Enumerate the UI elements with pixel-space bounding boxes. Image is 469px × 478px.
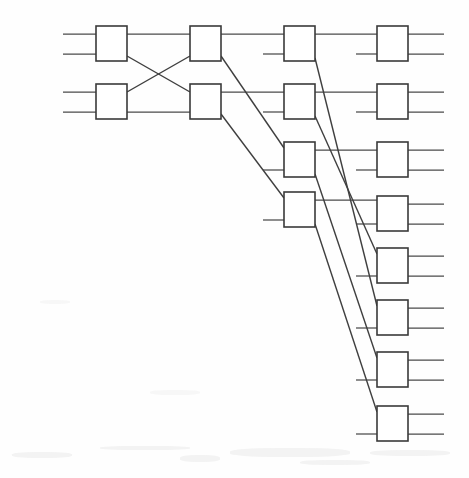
switch-node-s2n1[interactable]: [190, 26, 221, 61]
switch-node-s1n1[interactable]: [96, 26, 127, 61]
switch-node-s3n2[interactable]: [284, 84, 315, 119]
switch-node-s4n5[interactable]: [377, 248, 408, 283]
switch-node-s3n3[interactable]: [284, 142, 315, 177]
switch-node-s4n6[interactable]: [377, 300, 408, 335]
input-stub-group: [63, 34, 96, 112]
switch-node-group: [96, 26, 408, 441]
switch-node-s4n3[interactable]: [377, 142, 408, 177]
switch-node-s4n7[interactable]: [377, 352, 408, 387]
switch-node-s4n8[interactable]: [377, 406, 408, 441]
switch-node-s1n2[interactable]: [96, 84, 127, 119]
switch-node-s3n4[interactable]: [284, 192, 315, 227]
cross-s3n1-s4n6: [315, 58, 377, 306]
straight-link-group: [127, 34, 377, 434]
network-diagram-canvas: [0, 0, 469, 478]
network-diagram-svg: [0, 0, 469, 478]
switch-node-s4n4[interactable]: [377, 196, 408, 231]
switch-node-s4n1[interactable]: [377, 26, 408, 61]
switch-node-s3n1[interactable]: [284, 26, 315, 61]
switch-node-s4n2[interactable]: [377, 84, 408, 119]
cross-s3n4-s4n8: [315, 224, 377, 412]
output-stub-group: [408, 34, 444, 434]
switch-node-s2n2[interactable]: [190, 84, 221, 119]
cross-link-group: [127, 56, 377, 412]
cross-s3n2-s4n5: [315, 116, 377, 254]
cross-s2n2-s3n4: [221, 114, 284, 198]
cross-s2n1-s3n3: [221, 56, 284, 148]
